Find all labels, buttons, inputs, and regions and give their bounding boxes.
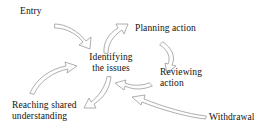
identifying-line-1: Identifying — [80, 52, 142, 63]
diagram-canvas: Entry Planning action Identifying the is… — [0, 0, 270, 133]
node-label-reviewing-action: Reviewing action — [160, 67, 230, 89]
arrow-entry-to-identifying — [55, 24, 91, 49]
arrow-identifying-to-planning — [104, 24, 128, 53]
reviewing-line-2: action — [160, 78, 230, 89]
arrow-withdrawal-to-cycle — [132, 95, 206, 119]
node-label-entry: Entry — [20, 6, 42, 17]
node-label-identifying-the-issues: Identifying the issues — [80, 52, 142, 74]
arrow-reviewing-to-identifying — [115, 80, 152, 90]
node-label-withdrawal: Withdrawal — [209, 112, 254, 123]
identifying-line-2: the issues — [80, 63, 142, 74]
reaching-line-2: understanding — [12, 111, 112, 122]
node-label-reaching-shared-understanding: Reaching shared understanding — [12, 100, 112, 122]
reviewing-line-1: Reviewing — [160, 67, 230, 78]
node-label-planning-action: Planning action — [135, 23, 196, 34]
reaching-line-1: Reaching shared — [12, 100, 112, 111]
arrow-reaching-to-identifying — [30, 62, 77, 94]
